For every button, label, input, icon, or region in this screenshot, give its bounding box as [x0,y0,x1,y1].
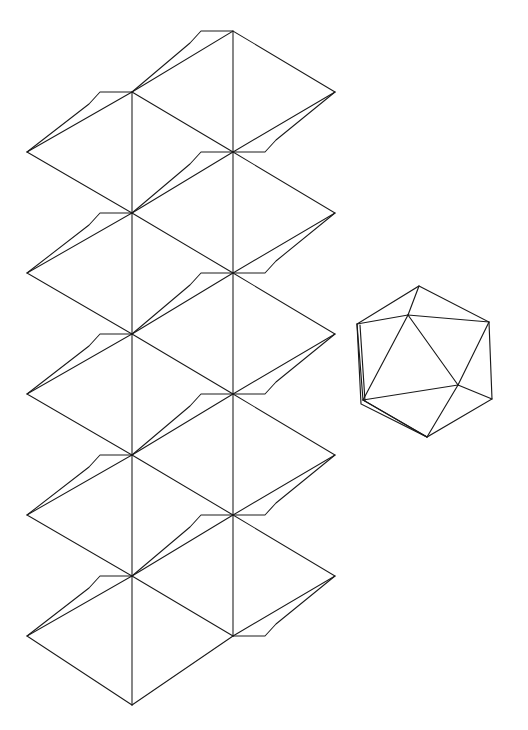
net-triangle-edges [27,31,335,705]
net-edge-cross-5a [132,636,233,705]
net-edge-cross-4a [132,515,233,576]
net-edge-right-boundary [233,92,335,636]
icosahedron-solid-group [357,286,492,437]
net-edge-cross-1b [132,213,233,273]
net-edge-cross-3a [132,394,233,455]
solid-edge-upper-mid [408,286,419,315]
net-edge-left-boundary [27,152,132,705]
net-edge-upper-boundary [27,31,335,152]
solid-edge-center-a [408,315,458,385]
solid-edge-mid-left-b [363,400,427,437]
net-edge-cross-2b [132,334,233,394]
solid-edge-center-b [363,315,408,400]
net-edge-cross-1a [132,152,233,213]
page-canvas [0,0,528,730]
net-edge-cross-2a [132,273,233,334]
net-glue-tabs [27,31,335,636]
net-edge-cross-0a [132,92,233,152]
figure-drawing-area [0,0,528,730]
solid-edge-mid-right-c [427,385,458,437]
solid-outline [357,286,492,437]
solid-edge-mid-right-b [458,385,492,399]
solid-edge-mid-left-a [363,385,458,400]
icosahedron-net-group [27,31,335,705]
solid-edge-mid-right-a [458,322,489,385]
net-edge-cross-4b [132,576,233,636]
net-edge-cross-3b [132,455,233,515]
